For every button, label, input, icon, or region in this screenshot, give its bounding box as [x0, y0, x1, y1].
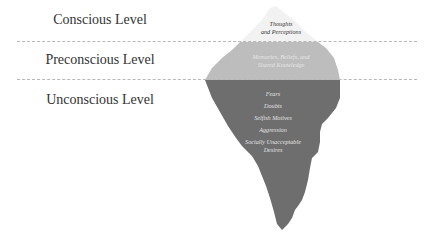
preconscious-unconscious-divider — [17, 79, 417, 80]
deep-item-selfish-motives: Selfish Motives — [218, 112, 328, 124]
middle-text: Memories, Beliefs, and Shared Knowledge — [226, 53, 336, 69]
deep-text: Fears Doubts Selfish Motives Aggression … — [218, 88, 328, 154]
deep-item-socially-unacceptable: Socially Unacceptable — [218, 138, 328, 146]
middle-line: Shared Knowledge — [226, 61, 336, 69]
deep-item-aggression: Aggression — [218, 124, 328, 136]
iceberg-graphic — [0, 0, 429, 244]
deep-item-fears: Fears — [218, 88, 328, 100]
deep-item-doubts: Doubts — [218, 100, 328, 112]
deep-item-desires: Desires — [218, 146, 328, 154]
tip-text: Thoughts and Perceptions — [226, 20, 336, 36]
tip-line: and Perceptions — [226, 28, 336, 36]
middle-line: Memories, Beliefs, and — [226, 53, 336, 61]
tip-line: Thoughts — [226, 20, 336, 28]
conscious-preconscious-divider — [17, 41, 417, 42]
